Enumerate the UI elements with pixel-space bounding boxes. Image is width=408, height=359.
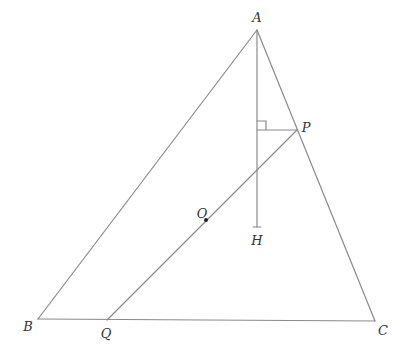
label-q: Q (101, 326, 112, 341)
label-h: H (250, 233, 263, 248)
label-b: B (22, 319, 33, 334)
right-angle-marker (257, 121, 266, 130)
diagram-svg: A B C P Q O H (0, 0, 408, 359)
segment-bc (38, 319, 375, 321)
segment-pq (107, 130, 297, 320)
label-p: P (301, 120, 311, 135)
geometry-diagram: A B C P Q O H (0, 0, 408, 359)
label-o: O (197, 206, 208, 221)
label-a: A (251, 10, 261, 25)
segment-ab (38, 30, 257, 319)
label-c: C (378, 323, 388, 338)
segment-ac (257, 30, 375, 321)
